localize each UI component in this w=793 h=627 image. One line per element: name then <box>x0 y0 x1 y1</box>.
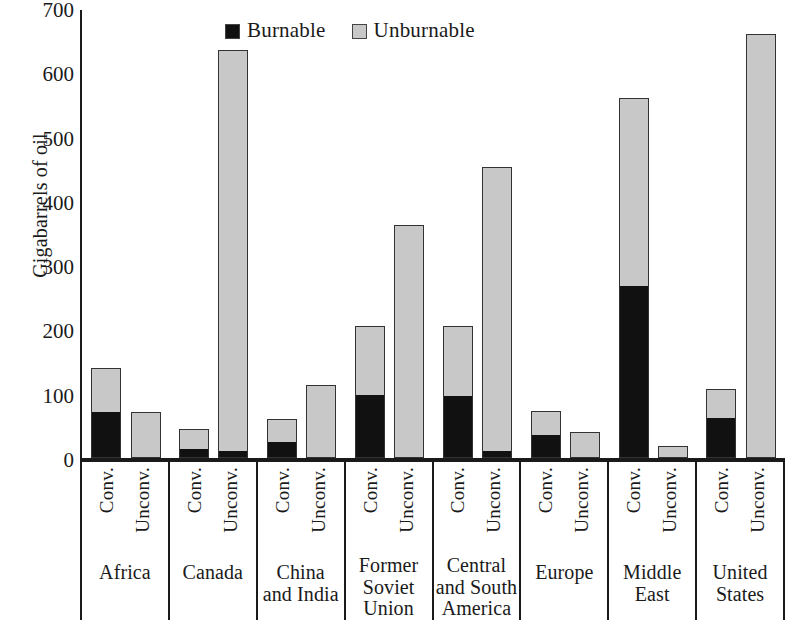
x-axis-sub-label: Conv. <box>96 467 118 513</box>
bar-segment-unburnable <box>747 35 775 457</box>
y-axis-tick: 500 <box>18 126 74 151</box>
bar-middle-east-unconv[interactable] <box>658 446 688 458</box>
bar-segment-burnable <box>356 395 384 457</box>
x-axis-label-table: Conv.Unconv.AfricaConv.Unconv.CanadaConv… <box>80 460 785 620</box>
x-axis-sub-labels: Conv.Unconv. <box>609 462 695 562</box>
bar-middle-east-conv[interactable] <box>619 98 649 458</box>
x-axis-sub-labels: Conv.Unconv. <box>346 462 432 555</box>
bar-segment-burnable <box>532 435 560 457</box>
x-axis-category-label: Middle East <box>609 562 695 605</box>
x-axis-sub-label: Unconv. <box>308 467 330 533</box>
bar-segment-burnable <box>92 412 120 457</box>
bar-europe-conv[interactable] <box>531 411 561 458</box>
bar-segment-unburnable <box>571 433 599 457</box>
bar-canada-conv[interactable] <box>179 429 209 458</box>
bar-segment-unburnable <box>268 420 296 441</box>
bar-former-soviet-union-unconv[interactable] <box>394 225 424 458</box>
bar-segment-unburnable <box>92 369 120 412</box>
bar-china-and-india-unconv[interactable] <box>306 385 336 458</box>
bar-segment-burnable <box>707 418 735 457</box>
x-axis-sub-labels: Conv.Unconv. <box>170 462 256 562</box>
bar-segment-burnable <box>620 286 648 457</box>
bar-central-and-south-america-unconv[interactable] <box>482 167 512 458</box>
x-axis-sub-label: Unconv. <box>132 467 154 533</box>
x-axis-group-europe: Conv.Unconv.Europe <box>521 462 609 620</box>
y-axis-tick: 300 <box>18 255 74 280</box>
bar-segment-burnable <box>483 451 511 457</box>
x-axis-sub-label: Conv. <box>447 467 469 513</box>
x-axis-sub-labels: Conv.Unconv. <box>434 462 520 555</box>
bar-united-states-unconv[interactable] <box>746 34 776 458</box>
bar-china-and-india-conv[interactable] <box>267 419 297 458</box>
bar-group <box>609 10 697 458</box>
bar-segment-burnable <box>268 442 296 457</box>
bar-segment-burnable <box>219 451 247 457</box>
bar-segment-burnable <box>444 396 472 457</box>
x-axis-sub-label: Conv. <box>623 467 645 513</box>
x-axis-sub-label: Unconv. <box>659 467 681 533</box>
bar-groups <box>82 10 785 458</box>
bar-segment-unburnable <box>659 447 687 457</box>
x-axis-category-label: United States <box>697 562 783 605</box>
bar-africa-conv[interactable] <box>91 368 121 458</box>
x-axis-sub-label: Unconv. <box>396 467 418 533</box>
bar-former-soviet-union-conv[interactable] <box>355 326 385 458</box>
bar-segment-unburnable <box>395 226 423 457</box>
y-axis-tick: 600 <box>18 62 74 87</box>
bar-europe-unconv[interactable] <box>570 432 600 458</box>
bar-segment-unburnable <box>707 390 735 419</box>
bar-segment-unburnable <box>307 386 335 457</box>
y-axis-tick: 100 <box>18 383 74 408</box>
x-axis-category-label: Africa <box>82 562 168 584</box>
x-axis-category-label: Canada <box>170 562 256 584</box>
x-axis-sub-label: Unconv. <box>220 467 242 533</box>
x-axis-sub-labels: Conv.Unconv. <box>697 462 783 562</box>
bar-segment-unburnable <box>180 430 208 449</box>
x-axis-sub-label: Conv. <box>711 467 733 513</box>
x-axis-group-africa: Conv.Unconv.Africa <box>82 462 170 620</box>
x-axis-category-label: Central and South America <box>434 555 520 620</box>
bar-group <box>697 10 785 458</box>
x-axis-group-canada: Conv.Unconv.Canada <box>170 462 258 620</box>
bar-united-states-conv[interactable] <box>706 389 736 458</box>
bar-africa-unconv[interactable] <box>131 412 161 458</box>
bar-group <box>521 10 609 458</box>
bar-segment-unburnable <box>132 413 160 457</box>
x-axis-group-central-and-south-america: Conv.Unconv.Central and South America <box>434 462 522 620</box>
x-axis-category-label: Europe <box>521 562 607 584</box>
bar-group <box>82 10 170 458</box>
bar-canada-unconv[interactable] <box>218 50 248 458</box>
y-axis-tick-labels: 7006005004003002001000 <box>18 0 74 627</box>
x-axis-category-label: Former Soviet Union <box>346 555 432 620</box>
bar-central-and-south-america-conv[interactable] <box>443 326 473 458</box>
x-axis-category-label: China and India <box>258 562 344 605</box>
x-axis-sub-labels: Conv.Unconv. <box>258 462 344 562</box>
chart-container: BurnableUnburnable Gigabarrels of oil 70… <box>0 0 793 627</box>
x-axis-sub-label: Unconv. <box>571 467 593 533</box>
x-axis-sub-label: Conv. <box>272 467 294 513</box>
plot-area <box>80 10 785 460</box>
x-axis-group-china-and-india: Conv.Unconv.China and India <box>258 462 346 620</box>
bar-group <box>170 10 258 458</box>
bar-segment-unburnable <box>483 168 511 450</box>
x-axis-sub-label: Conv. <box>184 467 206 513</box>
bar-group <box>434 10 522 458</box>
x-axis-sub-label: Unconv. <box>747 467 769 533</box>
x-axis-group-united-states: Conv.Unconv.United States <box>697 462 785 620</box>
x-axis-sub-labels: Conv.Unconv. <box>521 462 607 562</box>
bar-segment-burnable <box>180 449 208 457</box>
bar-segment-unburnable <box>620 99 648 286</box>
x-axis-sub-label: Conv. <box>535 467 557 513</box>
bar-group <box>346 10 434 458</box>
x-axis-sub-label: Unconv. <box>483 467 505 533</box>
y-axis-tick: 200 <box>18 319 74 344</box>
y-axis-tick: 700 <box>18 0 74 23</box>
y-axis-tick: 400 <box>18 190 74 215</box>
bar-group <box>258 10 346 458</box>
x-axis-group-former-soviet-union: Conv.Unconv.Former Soviet Union <box>346 462 434 620</box>
bar-segment-unburnable <box>219 51 247 451</box>
bar-segment-unburnable <box>444 327 472 395</box>
x-axis-sub-label: Conv. <box>360 467 382 513</box>
bar-segment-unburnable <box>532 412 560 435</box>
y-axis-tick: 0 <box>18 448 74 473</box>
